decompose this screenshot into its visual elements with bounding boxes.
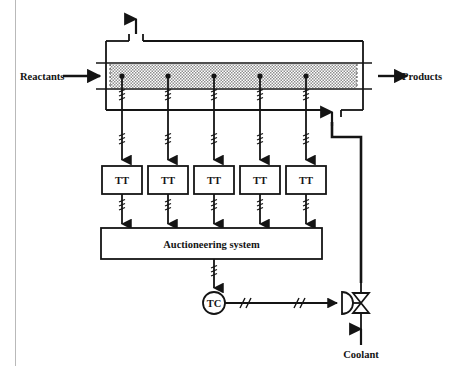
transmitter-label-1: TT — [115, 175, 129, 186]
coolant-label: Coolant — [343, 349, 379, 360]
products-outlet: Products — [378, 71, 442, 82]
electric-signal-squiggle-icon-1b — [119, 134, 125, 145]
electric-signal-squiggle-icon-4b — [257, 134, 263, 145]
coolant-pipe-to-jacket — [332, 112, 361, 283]
transmitter-label-2: TT — [161, 175, 175, 186]
reactants-label: Reactants — [20, 71, 64, 82]
coolant-riser-pipe — [332, 122, 361, 283]
electric-signal-squiggle-icon-4a — [257, 90, 263, 101]
auctioneering-system[interactable]: Auctioneering system — [101, 228, 322, 259]
diaphragm-actuator-icon[interactable] — [342, 292, 353, 314]
electric-signal-squiggle-icon-5a — [303, 90, 309, 101]
electric-signal-squiggle-icon-tc — [211, 266, 217, 277]
electric-signal-squiggle-icon-3b — [211, 134, 217, 145]
process-diagram: Reactants Products TT TT — [0, 0, 465, 366]
electric-signal-squiggle-icon-2c — [165, 200, 171, 211]
reactants-inlet: Reactants — [20, 71, 100, 82]
control-valve-assembly[interactable] — [342, 283, 369, 330]
pneumatic-output-line — [225, 298, 337, 308]
sensor-line-1: TT — [102, 73, 142, 224]
electric-signal-squiggle-icon-3a — [211, 90, 217, 101]
electric-signal-squiggle-icon-3c — [211, 200, 217, 211]
temperature-controller[interactable]: TC — [203, 292, 225, 314]
transmitter-label-5: TT — [299, 175, 313, 186]
transmitter-label-4: TT — [253, 175, 267, 186]
tc-label: TC — [207, 298, 222, 309]
electric-signal-squiggle-icon-5b — [303, 134, 309, 145]
electric-signal-squiggle-icon-1a — [119, 90, 125, 101]
auctioneer-to-controller-signal — [211, 259, 217, 288]
coolant-supply: Coolant — [343, 329, 379, 360]
diagram-canvas: Reactants Products TT TT — [0, 0, 465, 366]
catalyst-bed — [110, 64, 357, 88]
sensor-line-4: TT — [240, 73, 280, 224]
electric-signal-squiggle-icon-4c — [257, 200, 263, 211]
sensor-line-5: TT — [286, 73, 326, 224]
sensor-line-3: TT — [194, 73, 234, 224]
products-label: Products — [402, 71, 442, 82]
auctioneering-label: Auctioneering system — [163, 239, 260, 250]
electric-signal-squiggle-icon-1c — [119, 200, 125, 211]
electric-signal-squiggle-icon-5c — [303, 200, 309, 211]
reactor-vessel — [96, 19, 372, 117]
transmitter-label-3: TT — [207, 175, 221, 186]
electric-signal-squiggle-icon-2b — [165, 134, 171, 145]
electric-signal-squiggle-icon-2a — [165, 90, 171, 101]
sensor-line-2: TT — [148, 73, 188, 224]
